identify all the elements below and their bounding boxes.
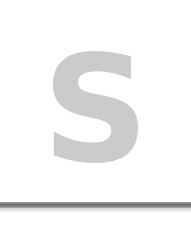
large-letter-s: S: [0, 30, 191, 190]
divider-shadow: [0, 208, 191, 212]
